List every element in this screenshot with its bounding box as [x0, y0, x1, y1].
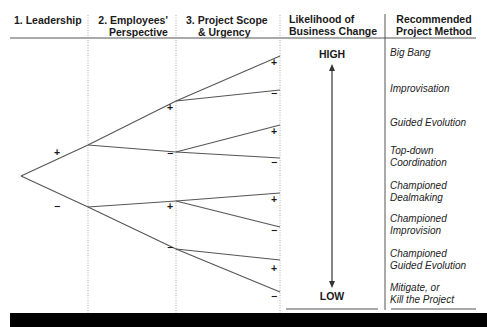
sign-employees-plus-2: +: [165, 200, 175, 212]
sign-employees-plus-1: +: [165, 101, 175, 113]
method-big-bang: Big Bang: [390, 47, 431, 59]
method-line: Kill the Project: [390, 294, 454, 306]
tree-branches: [21, 56, 280, 292]
sign-scope-plus-3: +: [269, 193, 279, 205]
method-line: Championed: [390, 180, 447, 192]
method-improvisation: Improvisation: [390, 83, 449, 95]
sign-scope-minus-3: −: [269, 224, 279, 236]
sign-scope-plus-4: +: [269, 262, 279, 274]
sign-leadership-plus: +: [52, 146, 62, 158]
likelihood-low-label: LOW: [302, 290, 362, 302]
likelihood-high-label: HIGH: [302, 48, 362, 60]
sign-scope-minus-4: −: [269, 290, 279, 302]
method-line: Guided Evolution: [390, 117, 466, 129]
method-line: Big Bang: [390, 47, 431, 59]
sign-scope-minus-1: −: [269, 87, 279, 99]
sign-scope-plus-1: +: [269, 56, 279, 68]
sign-employees-minus-2: −: [165, 241, 175, 253]
method-line: Dealmaking: [390, 192, 447, 204]
method-championed-guided-evolution: Championed Guided Evolution: [390, 248, 466, 272]
sign-scope-plus-2: +: [269, 125, 279, 137]
method-top-down-coordination: Top-down Coordination: [390, 145, 447, 169]
arrow-down-icon: [329, 281, 335, 288]
method-line: Mitigate, or: [390, 282, 454, 294]
method-championed-dealmaking: Championed Dealmaking: [390, 180, 447, 204]
sign-scope-minus-2: −: [269, 156, 279, 168]
bottom-black-bar: [10, 313, 487, 327]
method-line: Coordination: [390, 157, 447, 169]
method-line: Championed: [390, 213, 447, 225]
method-line: Guided Evolution: [390, 260, 466, 272]
method-guided-evolution: Guided Evolution: [390, 117, 466, 129]
method-line: Top-down: [390, 145, 447, 157]
likelihood-arrow: [329, 64, 335, 288]
sign-leadership-minus: −: [52, 200, 62, 212]
method-mitigate-or-kill: Mitigate, or Kill the Project: [390, 282, 454, 306]
method-line: Championed: [390, 248, 466, 260]
method-championed-improvision: Championed Improvision: [390, 213, 447, 237]
method-line: Improvisation: [390, 83, 449, 95]
sign-employees-minus-1: −: [165, 147, 175, 159]
arrow-up-icon: [329, 64, 335, 71]
method-line: Improvision: [390, 225, 447, 237]
